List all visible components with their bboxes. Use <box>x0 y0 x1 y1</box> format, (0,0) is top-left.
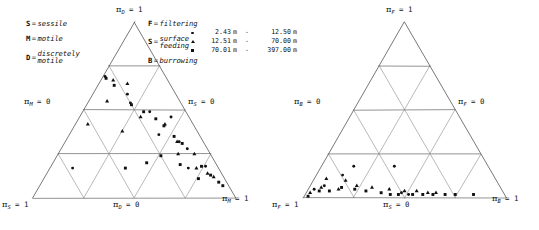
data-point-square <box>389 193 392 196</box>
data-point-square <box>364 190 367 193</box>
motility-key: S=sessileM=motileD=discretelymotile <box>26 20 80 72</box>
data-point-square <box>162 124 165 127</box>
data-point-circle <box>341 174 344 177</box>
data-point-circle <box>126 93 129 96</box>
key-definition: sessile <box>37 20 67 27</box>
legend-item: 70.01m-397.00m <box>188 46 303 55</box>
data-point-square <box>173 135 176 138</box>
data-point-square <box>145 161 148 164</box>
data-point-square <box>124 167 127 170</box>
data-point-square <box>154 117 157 120</box>
data-points <box>307 165 475 198</box>
data-point-square <box>142 110 145 113</box>
data-point-square <box>328 190 331 193</box>
data-point-circle <box>407 193 410 196</box>
data-point-square <box>472 193 475 196</box>
legend-unit-low: m <box>231 29 243 36</box>
axis-label-bottom-mid: πS = 0 <box>383 199 409 210</box>
legend-unit-high: m <box>291 47 303 54</box>
series-circle <box>313 165 410 196</box>
axis-label-apex: πF = 1 <box>386 4 412 15</box>
legend-range-high: 70.00 <box>251 38 291 45</box>
data-point-square <box>181 142 184 145</box>
data-point-triangle <box>370 185 374 189</box>
legend-unit-low: m <box>231 47 243 54</box>
data-point-square <box>217 181 220 184</box>
data-point-square <box>421 193 424 196</box>
data-point-circle <box>148 110 151 113</box>
data-point-circle <box>313 188 316 191</box>
data-point-square <box>353 188 356 191</box>
data-point-square <box>179 163 182 166</box>
axis-label-bottom-left: πF = 1 <box>272 199 298 210</box>
legend-item: 2.43m-12.50m <box>188 28 303 37</box>
data-point-triangle <box>194 166 198 170</box>
data-point-square <box>444 193 447 196</box>
data-point-square <box>411 193 414 196</box>
data-point-triangle <box>308 191 312 195</box>
legend-unit-high: m <box>291 38 303 45</box>
key-equals: = <box>154 38 158 46</box>
key-definition: surfacefeeding <box>159 35 189 49</box>
key-item: F=filtering <box>148 20 198 28</box>
data-point-square <box>221 184 224 187</box>
data-point-triangle <box>434 191 438 195</box>
key-symbol: F <box>148 20 152 28</box>
key-definition: discretelymotile <box>37 50 79 64</box>
axis-label-right-edge: πS = 0 <box>188 96 214 107</box>
key-item: S=sessile <box>26 20 80 28</box>
data-point-square <box>431 193 434 196</box>
axis-label-bottom-mid: πD = 0 <box>113 199 139 210</box>
key-symbol: D <box>26 54 30 62</box>
key-equals: = <box>32 35 36 43</box>
key-definition: motile <box>37 35 62 42</box>
key-symbol: S <box>148 38 152 46</box>
legend-item: 12.51m-70.00m <box>188 37 303 46</box>
key-item: B=burrowing <box>148 57 198 65</box>
data-point-circle <box>170 116 173 119</box>
key-symbol: S <box>26 20 30 28</box>
data-point-triangle <box>324 176 328 180</box>
series-circle <box>71 75 207 169</box>
legend-marker-circle-icon <box>188 29 197 36</box>
figure-canvas: πD = 1 πM = 0 πS = 0 πS = 1 πD = 0 πM = … <box>0 0 539 230</box>
data-point-circle <box>352 165 355 168</box>
key-item: M=motile <box>26 35 80 43</box>
data-point-triangle <box>355 184 359 188</box>
data-point-square <box>340 186 343 189</box>
legend-range-dash: - <box>243 47 251 54</box>
data-point-triangle <box>337 187 341 191</box>
data-point-square <box>105 77 108 80</box>
triangle-grid <box>328 66 481 199</box>
data-point-circle <box>400 191 403 194</box>
data-point-circle <box>393 165 396 168</box>
legend-range-dash: - <box>243 29 251 36</box>
data-point-square <box>380 191 383 194</box>
key-equals: = <box>32 20 36 28</box>
data-point-circle <box>186 147 189 150</box>
data-point-triangle <box>139 115 143 119</box>
data-point-square <box>113 84 116 87</box>
data-point-triangle <box>387 187 391 191</box>
legend-range-low: 2.43 <box>197 29 231 36</box>
data-point-triangle <box>415 189 419 193</box>
key-symbol: M <box>26 35 30 43</box>
key-definition: filtering <box>159 20 197 27</box>
data-point-triangle <box>212 175 216 179</box>
legend-range-high: 397.00 <box>251 47 291 54</box>
legend-range-low: 12.51 <box>197 38 231 45</box>
data-point-circle <box>204 165 207 168</box>
legend-marker-square-icon <box>188 47 197 54</box>
series-triangle <box>86 78 216 178</box>
legend-marker-triangle-icon <box>188 38 197 45</box>
axis-label-right-edge: πF = 0 <box>458 96 484 107</box>
data-point-circle <box>187 167 190 170</box>
data-point-square <box>318 190 321 193</box>
data-point-circle <box>157 133 160 136</box>
key-equals: = <box>32 54 36 62</box>
axis-label-left-edge: πB = 0 <box>294 96 320 107</box>
data-point-square <box>200 165 203 168</box>
key-equals: = <box>154 57 158 65</box>
data-point-square <box>454 193 457 196</box>
legend-range-low: 70.01 <box>197 47 231 54</box>
